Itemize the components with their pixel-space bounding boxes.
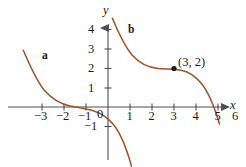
point-coordinate-label: (3, 2) xyxy=(178,56,205,69)
curve-b-label: b xyxy=(128,24,134,36)
plot-canvas xyxy=(0,0,246,167)
x-tick-label-neg1: −1 xyxy=(78,110,91,123)
x-tick-label-6: 6 xyxy=(232,110,238,123)
x-tick-label-3: 3 xyxy=(171,110,177,123)
x-tick-label-2: 2 xyxy=(149,110,155,123)
y-tick-label-1: 1 xyxy=(88,82,94,95)
y-tick-label-4: 4 xyxy=(88,23,94,36)
x-tick-label-1: 1 xyxy=(127,110,133,123)
x-tick-label-neg3: −3 xyxy=(34,110,47,123)
marked-point-3-2 xyxy=(171,66,176,71)
y-tick-label-2: 2 xyxy=(88,62,94,75)
y-tick-label-3: 3 xyxy=(88,43,94,56)
x-tick-label-neg2: −2 xyxy=(56,110,69,123)
graph-figure: y x 4 3 2 1 −1 0 −3 −2 −1 1 2 3 4 5 6 a … xyxy=(0,0,246,167)
y-axis-label: y xyxy=(103,4,109,17)
origin-label: 0 xyxy=(97,108,103,121)
x-tick-label-4: 4 xyxy=(193,110,199,123)
x-tick-label-5: 5 xyxy=(215,110,221,123)
curve-a-label: a xyxy=(42,50,48,62)
